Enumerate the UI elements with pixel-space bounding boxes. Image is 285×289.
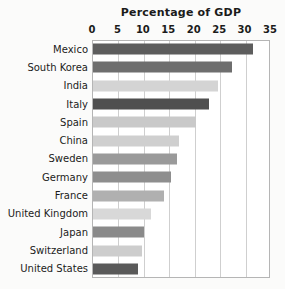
category-label-germany: Germany xyxy=(0,172,88,183)
bar-rows: MexicoSouth KoreaIndiaItalySpainChinaSwe… xyxy=(0,40,285,278)
category-label-united-kingdom: United Kingdom xyxy=(0,208,88,219)
bar-india xyxy=(93,80,218,91)
bar-row: India xyxy=(0,77,285,95)
x-tick-label-0: 0 xyxy=(89,24,96,35)
bar-italy xyxy=(93,99,209,110)
bar-united-states xyxy=(93,263,138,274)
category-label-france: France xyxy=(0,190,88,201)
bar-south-korea xyxy=(93,62,232,73)
x-tick-label-25: 25 xyxy=(212,24,226,35)
x-tick-label-15: 15 xyxy=(161,24,175,35)
category-label-china: China xyxy=(0,135,88,146)
bar-row: France xyxy=(0,186,285,204)
category-label-india: India xyxy=(0,80,88,91)
bar-row: Japan xyxy=(0,223,285,241)
bar-france xyxy=(93,190,164,201)
category-label-united-states: United States xyxy=(0,263,88,274)
bar-spain xyxy=(93,117,196,128)
bar-switzerland xyxy=(93,245,142,256)
bar-row: United Kingdom xyxy=(0,205,285,223)
category-label-sweden: Sweden xyxy=(0,153,88,164)
bar-sweden xyxy=(93,153,177,164)
bar-row: Italy xyxy=(0,95,285,113)
x-tick-label-20: 20 xyxy=(187,24,201,35)
category-label-south-korea: South Korea xyxy=(0,62,88,73)
x-tick-label-30: 30 xyxy=(238,24,252,35)
bar-row: South Korea xyxy=(0,58,285,76)
x-tick-label-5: 5 xyxy=(114,24,121,35)
category-label-japan: Japan xyxy=(0,227,88,238)
bar-japan xyxy=(93,227,144,238)
bar-united-kingdom xyxy=(93,208,151,219)
bar-chart: Percentage of GDP 05101520253035 MexicoS… xyxy=(0,0,285,289)
x-tick-label-35: 35 xyxy=(263,24,277,35)
category-label-spain: Spain xyxy=(0,117,88,128)
category-label-switzerland: Switzerland xyxy=(0,245,88,256)
bar-row: United States xyxy=(0,260,285,278)
bar-china xyxy=(93,135,179,146)
bar-mexico xyxy=(93,44,253,55)
category-label-italy: Italy xyxy=(0,99,88,110)
bar-row: Germany xyxy=(0,168,285,186)
bar-row: Spain xyxy=(0,113,285,131)
x-tick-label-10: 10 xyxy=(136,24,150,35)
bar-row: Switzerland xyxy=(0,241,285,259)
chart-title: Percentage of GDP xyxy=(92,6,270,19)
bar-germany xyxy=(93,172,171,183)
bar-row: Mexico xyxy=(0,40,285,58)
category-label-mexico: Mexico xyxy=(0,44,88,55)
bar-row: Sweden xyxy=(0,150,285,168)
x-axis-tick-labels: 05101520253035 xyxy=(0,24,285,38)
bar-row: China xyxy=(0,132,285,150)
